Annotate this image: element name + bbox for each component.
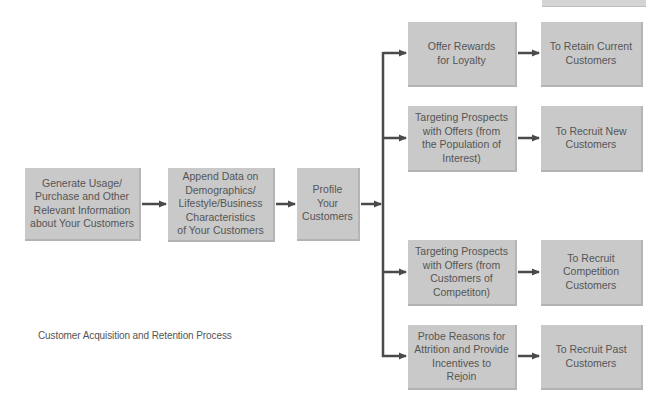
diagram-caption: Customer Acquisition and Retention Proce… bbox=[38, 330, 232, 341]
recruit-new-customers-box: To Recruit New Customers bbox=[541, 106, 643, 172]
target-competitor-customers-box: Targeting Prospects with Offers (from Cu… bbox=[408, 240, 517, 306]
profile-customers-box: Profile Your Customers bbox=[297, 168, 360, 241]
generate-usage-box: Generate Usage/ Purchase and Other Relev… bbox=[25, 168, 141, 241]
append-data-box: Append Data on Demographics/ Lifestyle/B… bbox=[168, 168, 275, 242]
offer-rewards-box: Offer Rewards for Loyalty bbox=[408, 22, 517, 87]
recruit-past-customers-box: To Recruit Past Customers bbox=[541, 325, 643, 390]
target-population-box: Targeting Prospects with Offers (from th… bbox=[408, 106, 517, 172]
recruit-competition-customers-box: To Recruit Competition Customers bbox=[541, 240, 643, 306]
retain-current-customers-box: To Retain Current Customers bbox=[541, 22, 643, 87]
probe-attrition-box: Probe Reasons for Attrition and Provide … bbox=[408, 325, 517, 390]
